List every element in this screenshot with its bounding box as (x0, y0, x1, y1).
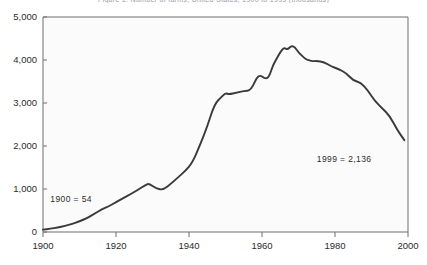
x-tick-label: 2000 (397, 240, 418, 251)
x-tick-label: 1960 (251, 240, 272, 251)
annotation-1: 1900 = 54 (50, 194, 92, 204)
y-tick-label: 1,000 (13, 183, 37, 194)
x-axis-ticks (43, 232, 408, 237)
y-axis-labels: 01,0002,0003,0004,0005,000 (13, 11, 37, 237)
line-chart: 01,0002,0003,0004,0005,000 1900192019401… (0, 0, 427, 265)
chart-container: Figure 1. Number of farms, United States… (0, 0, 427, 265)
annotation-2: 1999 = 2,136 (317, 154, 372, 164)
x-tick-label: 1920 (105, 240, 126, 251)
x-axis-labels: 190019201940196019802000 (32, 240, 418, 251)
y-tick-label: 4,000 (13, 54, 37, 65)
plot-background (43, 17, 408, 232)
y-tick-label: 3,000 (13, 97, 37, 108)
x-tick-label: 1900 (32, 240, 53, 251)
y-tick-label: 5,000 (13, 11, 37, 22)
y-tick-label: 0 (32, 226, 37, 237)
y-tick-label: 2,000 (13, 140, 37, 151)
x-tick-label: 1940 (178, 240, 199, 251)
x-tick-label: 1980 (324, 240, 345, 251)
